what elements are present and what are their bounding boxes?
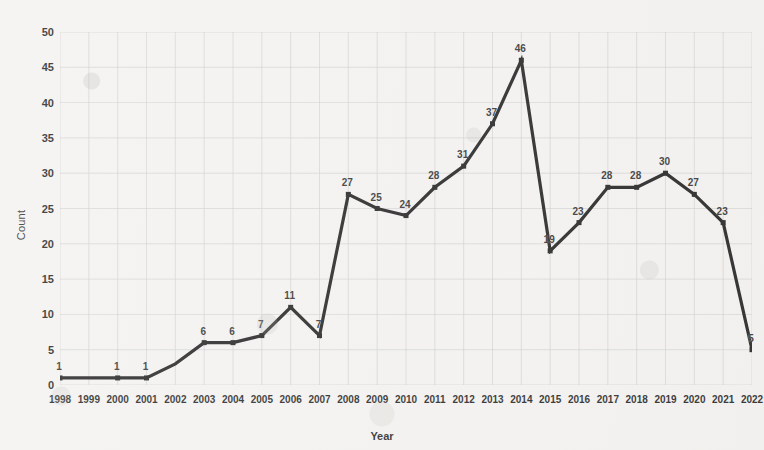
point-label-2020: 27: [688, 177, 699, 188]
x-tick-2011: 2011: [424, 394, 446, 405]
point-label-2007: 7: [316, 319, 322, 330]
point-label-2018: 28: [630, 170, 641, 181]
x-tick-2004: 2004: [222, 394, 244, 405]
point-label-2016: 23: [572, 206, 583, 217]
x-tick-2016: 2016: [568, 394, 590, 405]
point-label-2010: 24: [399, 199, 410, 210]
y-tick-25: 25: [26, 203, 54, 215]
x-tick-2003: 2003: [193, 394, 215, 405]
x-tick-2017: 2017: [597, 394, 619, 405]
point-label-2003: 6: [200, 326, 206, 337]
x-tick-2012: 2012: [453, 394, 475, 405]
x-tick-2013: 2013: [481, 394, 503, 405]
x-tick-2009: 2009: [366, 394, 388, 405]
x-axis-title: Year: [0, 430, 764, 442]
x-tick-2010: 2010: [395, 394, 417, 405]
point-label-2011: 28: [428, 170, 439, 181]
point-label-2001: 1: [143, 361, 149, 372]
point-label-2006: 11: [284, 290, 295, 301]
x-tick-2020: 2020: [683, 394, 705, 405]
x-tick-2008: 2008: [337, 394, 359, 405]
point-label-2013: 37: [486, 107, 497, 118]
x-tick-2000: 2000: [107, 394, 129, 405]
y-tick-5: 5: [26, 344, 54, 356]
x-tick-2019: 2019: [654, 394, 676, 405]
point-label-2015: 19: [544, 234, 555, 245]
y-tick-30: 30: [26, 167, 54, 179]
point-label-2022: 5: [748, 333, 754, 344]
y-tick-50: 50: [26, 26, 54, 38]
x-tick-2018: 2018: [626, 394, 648, 405]
y-tick-20: 20: [26, 238, 54, 250]
x-tick-2022: 2022: [741, 394, 763, 405]
line-chart: Count 05101520253035404550 1116671172725…: [0, 0, 764, 450]
x-tick-2006: 2006: [280, 394, 302, 405]
point-label-2009: 25: [371, 192, 382, 203]
point-label-2008: 27: [342, 177, 353, 188]
x-tick-2001: 2001: [135, 394, 157, 405]
x-tick-2002: 2002: [164, 394, 186, 405]
point-label-2021: 23: [717, 206, 728, 217]
x-axis-tick-labels: 1998199920002001200220032004200520062007…: [0, 394, 764, 410]
y-tick-15: 15: [26, 273, 54, 285]
point-label-2019: 30: [659, 156, 670, 167]
point-label-2014: 46: [515, 43, 526, 54]
y-tick-45: 45: [26, 61, 54, 73]
point-label-2000: 1: [114, 361, 120, 372]
point-label-2005: 7: [258, 319, 264, 330]
y-tick-40: 40: [26, 97, 54, 109]
x-tick-2005: 2005: [251, 394, 273, 405]
y-tick-0: 0: [26, 379, 54, 391]
x-tick-1998: 1998: [49, 394, 71, 405]
x-tick-1999: 1999: [78, 394, 100, 405]
x-tick-2015: 2015: [539, 394, 561, 405]
point-label-2012: 31: [457, 149, 468, 160]
x-tick-2007: 2007: [308, 394, 330, 405]
y-axis-tick-labels: 05101520253035404550: [24, 0, 54, 450]
y-tick-35: 35: [26, 132, 54, 144]
x-tick-2021: 2021: [712, 394, 734, 405]
y-tick-10: 10: [26, 308, 54, 320]
point-label-1998: 1: [56, 361, 62, 372]
point-label-2017: 28: [601, 170, 612, 181]
point-label-2004: 6: [229, 326, 235, 337]
x-tick-2014: 2014: [510, 394, 532, 405]
